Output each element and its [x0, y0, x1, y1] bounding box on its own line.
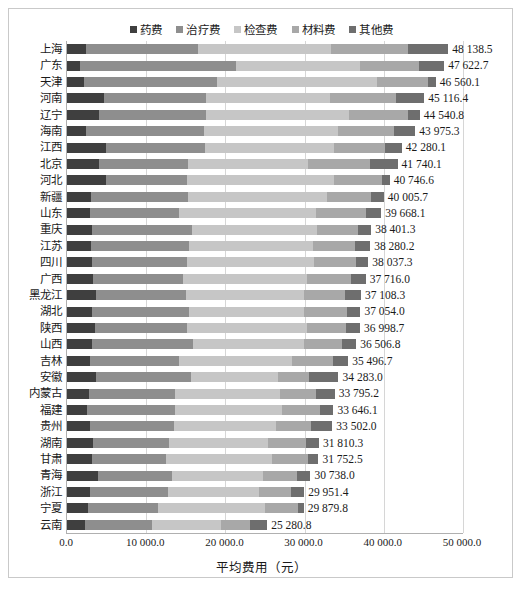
stacked-bar[interactable] — [67, 61, 444, 71]
bar-segment-材料费[interactable] — [259, 487, 291, 497]
bar-segment-其他费[interactable] — [345, 290, 361, 300]
legend-item-1[interactable]: 药费 — [130, 21, 162, 37]
bar-segment-治疗费[interactable] — [104, 93, 206, 103]
stacked-bar[interactable] — [67, 159, 398, 169]
bar-segment-材料费[interactable] — [282, 405, 319, 415]
bar-segment-药费[interactable] — [67, 389, 89, 399]
bar-segment-材料费[interactable] — [292, 356, 333, 366]
bar-segment-材料费[interactable] — [327, 192, 371, 202]
legend-item-5[interactable]: 其他费 — [349, 21, 393, 37]
bar-segment-药费[interactable] — [67, 438, 93, 448]
stacked-bar[interactable] — [67, 307, 360, 317]
bar-segment-其他费[interactable] — [333, 356, 348, 366]
bar-segment-其他费[interactable] — [297, 471, 310, 481]
stacked-bar[interactable] — [67, 257, 368, 267]
stacked-bar[interactable] — [67, 339, 356, 349]
bar-segment-检查费[interactable] — [205, 143, 334, 153]
bar-segment-治疗费[interactable] — [90, 421, 174, 431]
stacked-bar[interactable] — [67, 175, 390, 185]
stacked-bar[interactable] — [67, 389, 335, 399]
bar-segment-材料费[interactable] — [313, 241, 356, 251]
stacked-bar[interactable] — [67, 93, 424, 103]
bar-segment-药费[interactable] — [67, 61, 80, 71]
bar-segment-治疗费[interactable] — [95, 323, 187, 333]
bar-segment-材料费[interactable] — [304, 290, 345, 300]
bar-segment-药费[interactable] — [67, 77, 84, 87]
stacked-bar[interactable] — [67, 208, 381, 218]
bar-segment-检查费[interactable] — [183, 274, 307, 284]
bar-segment-检查费[interactable] — [189, 241, 313, 251]
bar-segment-治疗费[interactable] — [93, 438, 169, 448]
bar-segment-治疗费[interactable] — [98, 471, 172, 481]
bar-segment-药费[interactable] — [67, 290, 96, 300]
stacked-bar[interactable] — [67, 471, 310, 481]
bar-segment-药费[interactable] — [67, 126, 86, 136]
bar-segment-治疗费[interactable] — [92, 225, 192, 235]
bar-segment-检查费[interactable] — [217, 77, 377, 87]
bar-segment-治疗费[interactable] — [106, 143, 205, 153]
bar-segment-检查费[interactable] — [193, 339, 304, 349]
bar-segment-材料费[interactable] — [278, 372, 310, 382]
bar-segment-治疗费[interactable] — [86, 44, 198, 54]
bar-segment-其他费[interactable] — [370, 159, 398, 169]
stacked-bar[interactable] — [67, 421, 332, 431]
bar-segment-检查费[interactable] — [186, 290, 304, 300]
bar-segment-药费[interactable] — [67, 339, 92, 349]
legend-item-3[interactable]: 检查费 — [234, 21, 278, 37]
bar-segment-材料费[interactable] — [307, 274, 351, 284]
bar-segment-治疗费[interactable] — [85, 520, 152, 530]
bar-segment-治疗费[interactable] — [99, 159, 188, 169]
bar-segment-检查费[interactable] — [169, 438, 268, 448]
bar-segment-药费[interactable] — [67, 143, 106, 153]
bar-segment-药费[interactable] — [67, 307, 92, 317]
bar-segment-其他费[interactable] — [316, 389, 334, 399]
bar-segment-检查费[interactable] — [166, 454, 272, 464]
bar-segment-药费[interactable] — [67, 421, 90, 431]
stacked-bar[interactable] — [67, 274, 366, 284]
stacked-bar[interactable] — [67, 372, 339, 382]
bar-segment-治疗费[interactable] — [91, 241, 189, 251]
bar-segment-其他费[interactable] — [371, 192, 384, 202]
bar-segment-药费[interactable] — [67, 323, 95, 333]
bar-segment-材料费[interactable] — [265, 503, 298, 513]
bar-segment-其他费[interactable] — [366, 208, 381, 218]
bar-segment-其他费[interactable] — [428, 77, 436, 87]
legend-item-2[interactable]: 治疗费 — [176, 21, 220, 37]
bar-segment-检查费[interactable] — [188, 159, 308, 169]
bar-segment-其他费[interactable] — [342, 339, 356, 349]
bar-segment-其他费[interactable] — [358, 225, 371, 235]
bar-segment-药费[interactable] — [67, 257, 92, 267]
bar-segment-检查费[interactable] — [158, 503, 265, 513]
bar-segment-检查费[interactable] — [206, 110, 349, 120]
bar-segment-材料费[interactable] — [360, 61, 419, 71]
bar-segment-其他费[interactable] — [309, 372, 338, 382]
bar-segment-药费[interactable] — [67, 110, 99, 120]
bar-segment-其他费[interactable] — [306, 438, 319, 448]
bar-segment-检查费[interactable] — [206, 93, 330, 103]
bar-segment-其他费[interactable] — [355, 241, 370, 251]
stacked-bar[interactable] — [67, 143, 402, 153]
bar-segment-检查费[interactable] — [179, 208, 316, 218]
bar-segment-其他费[interactable] — [408, 110, 420, 120]
bar-segment-药费[interactable] — [67, 241, 91, 251]
bar-segment-治疗费[interactable] — [89, 389, 175, 399]
bar-segment-材料费[interactable] — [304, 339, 342, 349]
bar-segment-检查费[interactable] — [188, 192, 327, 202]
bar-segment-检查费[interactable] — [187, 257, 315, 267]
stacked-bar[interactable] — [67, 323, 360, 333]
bar-segment-治疗费[interactable] — [96, 372, 190, 382]
bar-segment-检查费[interactable] — [172, 471, 264, 481]
bar-segment-检查费[interactable] — [152, 520, 221, 530]
bar-segment-材料费[interactable] — [263, 471, 297, 481]
bar-segment-检查费[interactable] — [187, 323, 307, 333]
bar-segment-其他费[interactable] — [356, 257, 368, 267]
bar-segment-其他费[interactable] — [320, 405, 334, 415]
bar-segment-检查费[interactable] — [192, 225, 317, 235]
bar-segment-治疗费[interactable] — [90, 208, 179, 218]
bar-segment-材料费[interactable] — [307, 323, 346, 333]
bar-segment-其他费[interactable] — [351, 274, 365, 284]
bar-segment-材料费[interactable] — [334, 143, 385, 153]
bar-segment-治疗费[interactable] — [90, 487, 168, 497]
bar-segment-材料费[interactable] — [349, 110, 408, 120]
bar-segment-药费[interactable] — [67, 159, 99, 169]
